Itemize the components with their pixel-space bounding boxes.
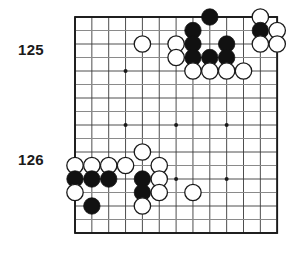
black-stone [202,9,218,25]
white-stone [235,63,251,79]
white-stone [202,63,218,79]
white-stone [134,198,150,214]
white-stone [185,63,201,79]
black-stone [101,171,117,187]
white-stone [134,36,150,52]
white-stone [185,184,201,200]
white-stone [252,36,268,52]
white-stone [67,184,83,200]
go-diagram-root: 125 126 [0,0,296,255]
black-stone [84,171,100,187]
go-board [0,0,296,255]
go-board-svg [0,0,296,255]
white-stone [218,63,234,79]
white-stone [269,36,285,52]
star-point [225,123,229,127]
star-point [124,69,128,73]
white-stone [151,184,167,200]
star-point [174,177,178,181]
star-point [124,123,128,127]
star-point [174,123,178,127]
white-stone [117,157,133,173]
white-stone [134,144,150,160]
white-stone [168,49,184,65]
black-stone [84,198,100,214]
star-point [225,177,229,181]
